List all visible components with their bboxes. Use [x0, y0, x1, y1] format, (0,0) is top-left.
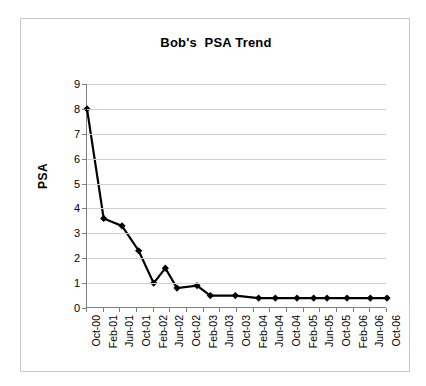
x-axis-tick-label: Oct-00	[90, 315, 102, 347]
y-axis-tick-mark	[82, 184, 86, 185]
gridline	[87, 84, 386, 85]
x-axis-tick-mark	[236, 308, 237, 312]
y-axis-tick-labels: 0123456789	[60, 84, 80, 308]
x-axis-tick-label: Jun-05	[323, 315, 335, 347]
x-axis-tick-mark	[369, 308, 370, 312]
x-axis-tick-mark	[336, 308, 337, 312]
gridline	[87, 283, 386, 284]
gridline	[87, 233, 386, 234]
y-axis-tick-label: 3	[60, 227, 80, 239]
x-axis-tick-mark	[353, 308, 354, 312]
y-axis-tick-label: 7	[60, 128, 80, 140]
gridline	[87, 109, 386, 110]
x-axis-tick-label: Feb-06	[357, 315, 369, 348]
x-axis-tick-mark	[86, 308, 87, 312]
y-axis-tick-mark	[82, 283, 86, 284]
x-axis-tick-mark	[203, 308, 204, 312]
y-axis-tick-label: 5	[60, 178, 80, 190]
x-axis-tick-label: Feb-01	[107, 315, 119, 348]
y-axis-tick-mark	[82, 258, 86, 259]
chart-title: Bob's PSA Trend	[21, 35, 411, 50]
x-axis-tick-label: Oct-05	[340, 315, 352, 347]
x-axis-tick-label: Feb-02	[157, 315, 169, 348]
plot-area	[86, 84, 386, 308]
x-axis-tick-label: Jun-03	[223, 315, 235, 347]
data-point-marker	[293, 294, 300, 301]
x-axis-tick-label: Oct-04	[290, 315, 302, 347]
x-axis-tick-label: Jun-06	[373, 315, 385, 347]
data-point-marker	[323, 294, 330, 301]
data-point-marker	[232, 292, 239, 299]
data-point-marker	[272, 294, 279, 301]
x-axis-tick-mark	[136, 308, 137, 312]
data-point-marker	[100, 215, 107, 222]
y-axis-tick-mark	[82, 159, 86, 160]
x-axis-tick-mark	[103, 308, 104, 312]
y-axis-tick-label: 2	[60, 252, 80, 264]
gridline	[87, 208, 386, 209]
series-psa	[87, 84, 387, 308]
y-axis-tick-label: 0	[60, 302, 80, 314]
x-axis-tick-mark	[269, 308, 270, 312]
y-axis-title: PSA	[36, 156, 50, 196]
x-axis-tick-mark	[319, 308, 320, 312]
x-axis-tick-label: Jun-04	[273, 315, 285, 347]
gridline	[87, 258, 386, 259]
x-axis-tick-label: Feb-03	[207, 315, 219, 348]
x-axis-tick-mark	[286, 308, 287, 312]
y-axis-tick-mark	[82, 233, 86, 234]
y-axis-tick-label: 1	[60, 277, 80, 289]
data-point-marker	[255, 294, 262, 301]
x-axis-tick-mark	[386, 308, 387, 312]
y-axis-tick-mark	[82, 134, 86, 135]
x-axis-tick-mark	[169, 308, 170, 312]
y-axis-tick-mark	[82, 84, 86, 85]
x-axis-tick-mark	[186, 308, 187, 312]
gridline	[87, 159, 386, 160]
x-axis-tick-mark	[303, 308, 304, 312]
x-axis-tick-label: Oct-02	[190, 315, 202, 347]
y-axis-tick-label: 6	[60, 153, 80, 165]
x-axis-tick-label: Feb-05	[307, 315, 319, 348]
x-axis-tick-mark	[153, 308, 154, 312]
y-axis-tick-mark	[82, 208, 86, 209]
x-axis-tick-label: Feb-04	[257, 315, 269, 348]
x-axis-tick-label: Oct-01	[140, 315, 152, 347]
chart-frame: Bob's PSA Trend PSA 0123456789 Oct-00Feb…	[20, 18, 410, 372]
x-axis-tick-label: Jun-02	[173, 315, 185, 347]
x-axis-tick-label: Oct-03	[240, 315, 252, 347]
x-axis-tick-mark	[253, 308, 254, 312]
y-axis-tick-label: 8	[60, 103, 80, 115]
y-axis-tick-mark	[82, 109, 86, 110]
x-axis-tick-label: Oct-06	[390, 315, 402, 347]
x-axis-tick-label: Jun-01	[123, 315, 135, 347]
y-axis-tick-label: 4	[60, 202, 80, 214]
series-line	[87, 109, 387, 298]
gridline	[87, 184, 386, 185]
data-point-marker	[367, 294, 374, 301]
data-point-marker	[343, 294, 350, 301]
gridline	[87, 134, 386, 135]
data-point-marker	[310, 294, 317, 301]
data-point-marker	[383, 294, 390, 301]
x-axis-tick-mark	[119, 308, 120, 312]
y-axis-tick-label: 9	[60, 78, 80, 90]
x-axis-tick-mark	[219, 308, 220, 312]
